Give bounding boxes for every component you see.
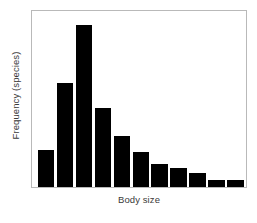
bar-9 bbox=[189, 173, 205, 187]
bar-11 bbox=[227, 180, 243, 187]
bar-5 bbox=[114, 136, 130, 187]
bar-10 bbox=[208, 180, 224, 187]
x-axis-label-container: Body size bbox=[31, 194, 247, 216]
bars-area bbox=[32, 11, 246, 187]
bar-6 bbox=[133, 152, 149, 187]
bar-2 bbox=[57, 83, 73, 187]
bar-4 bbox=[95, 108, 111, 187]
chart-figure: Frequency (species) Body size bbox=[0, 0, 257, 223]
y-axis-label: Frequency (species) bbox=[10, 51, 21, 139]
plot-frame bbox=[31, 10, 247, 188]
bar-3 bbox=[76, 25, 92, 187]
bar-1 bbox=[38, 150, 54, 187]
x-axis-label: Body size bbox=[118, 194, 160, 205]
y-axis-label-container: Frequency (species) bbox=[0, 0, 31, 190]
bar-8 bbox=[170, 168, 186, 187]
bar-7 bbox=[151, 164, 167, 187]
